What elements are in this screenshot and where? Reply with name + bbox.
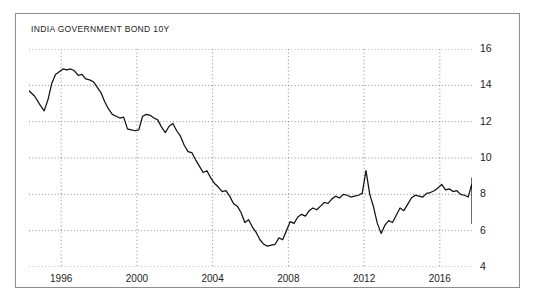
y-axis-tick-label: 16: [480, 42, 492, 54]
x-axis-tick-label: 2000: [126, 273, 148, 284]
y-axis-tick-label: 14: [480, 78, 492, 90]
y-axis-tick-label: 8: [480, 187, 486, 199]
y-axis-tick-label: 6: [480, 224, 486, 236]
y-axis-tick-label: 12: [480, 115, 492, 127]
x-axis-tick-label: 2008: [277, 273, 299, 284]
horizontal-gridlines: [29, 49, 472, 267]
chart-plot-area: [29, 49, 472, 267]
x-axis-tick-label: 1996: [50, 273, 72, 284]
y-axis-tick-label: 4: [480, 260, 486, 272]
chart-card: INDIA GOVERNMENT BOND 10Y 46810121416 19…: [15, 13, 520, 288]
line-chart-svg: [29, 49, 472, 267]
bond-yield-line: [29, 69, 472, 246]
x-axis-tick-label: 2016: [429, 273, 451, 284]
x-axis-tick-label: 2012: [353, 273, 375, 284]
y-axis-tick-label: 10: [480, 151, 492, 163]
x-axis-tick-label: 2004: [202, 273, 224, 284]
page-title: INDIA GOVERNMENT BOND 10Y: [31, 24, 169, 34]
